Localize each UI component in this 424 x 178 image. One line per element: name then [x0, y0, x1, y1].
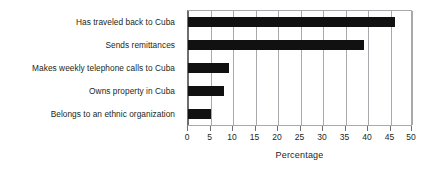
x-axis-tick-labels: 05101520253035404550	[187, 132, 412, 144]
x-axis-tick	[277, 126, 278, 131]
bar-row	[188, 63, 411, 73]
x-axis-tick-label: 0	[185, 132, 190, 143]
bar-row	[188, 109, 411, 119]
x-axis-tick	[411, 126, 412, 131]
bar	[188, 109, 211, 119]
x-axis-tick	[367, 126, 368, 131]
bar-row	[188, 40, 411, 50]
bar	[188, 17, 395, 27]
category-label: Sends remittances	[105, 40, 175, 50]
x-axis-tick-label: 15	[250, 132, 259, 143]
bar	[188, 86, 224, 96]
bar	[188, 40, 364, 50]
x-axis-tick-label: 35	[340, 132, 349, 143]
x-axis-tick-label: 10	[227, 132, 236, 143]
bar-series	[188, 11, 411, 125]
x-axis-tick-label: 50	[406, 132, 415, 143]
bar-row	[188, 86, 411, 96]
category-axis-labels: Has traveled back to Cuba Sends remittan…	[0, 10, 181, 126]
bar	[188, 63, 229, 73]
category-label: Makes weekly telephone calls to Cuba	[32, 63, 175, 73]
x-axis-tick	[300, 126, 301, 131]
x-axis-title: Percentage	[187, 150, 412, 160]
plot-area	[187, 10, 412, 126]
x-axis-tick	[232, 126, 233, 131]
x-axis-tick	[210, 126, 211, 131]
x-axis-tick-label: 40	[362, 132, 371, 143]
category-label: Owns property in Cuba	[89, 86, 175, 96]
x-axis-tick	[390, 126, 391, 131]
x-axis-tick	[345, 126, 346, 131]
x-axis-tick-label: 45	[385, 132, 394, 143]
category-label: Belongs to an ethnic organization	[51, 109, 175, 119]
x-axis-tick	[322, 126, 323, 131]
x-axis-tick-label: 30	[317, 132, 326, 143]
x-axis-tick	[187, 126, 188, 131]
bar-row	[188, 17, 411, 27]
bar-chart: Has traveled back to Cuba Sends remittan…	[0, 0, 424, 178]
x-axis-tick-label: 20	[272, 132, 281, 143]
category-label: Has traveled back to Cuba	[76, 17, 175, 27]
gridline	[412, 11, 413, 125]
x-axis-tick	[255, 126, 256, 131]
x-axis-tick-label: 5	[207, 132, 212, 143]
x-axis-tick-label: 25	[295, 132, 304, 143]
